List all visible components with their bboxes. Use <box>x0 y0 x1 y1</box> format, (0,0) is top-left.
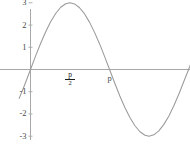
x-tick-label-pi-over-2: p 2 <box>65 71 75 87</box>
y-tick-label-1: 1 <box>0 43 27 52</box>
x-tick-label-pi-over-2-denominator: 2 <box>65 80 75 87</box>
y-tick-label-minus-2: -2 <box>0 109 27 118</box>
y-tick-label-minus-1: -1 <box>0 87 27 96</box>
x-tick-label-pi: p <box>102 74 118 83</box>
x-tick-label-pi-over-2-numerator: p <box>65 71 75 79</box>
y-tick-label-3: 3 <box>0 0 27 7</box>
plot-canvas <box>0 0 190 150</box>
y-tick-label-minus-3: -3 <box>0 132 27 141</box>
sine-curve-plot: 3 2 1 -1 -2 -3 p 2 p <box>0 0 190 150</box>
y-tick-label-2: 2 <box>0 21 27 30</box>
